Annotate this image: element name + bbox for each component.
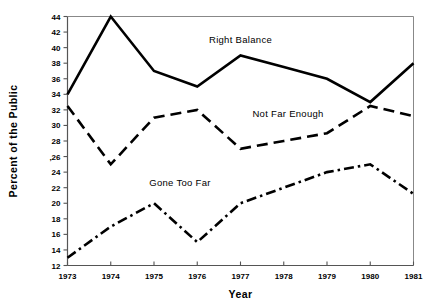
y-tick-label: 28: [52, 137, 61, 146]
series-label-not-far-enough: Not Far Enough: [252, 108, 323, 119]
series-label-right-balance: Right Balance: [209, 34, 272, 45]
y-axis-title: Percent of the Public: [7, 85, 19, 198]
series-line-not-far-enough: [68, 106, 414, 164]
y-tick-label: 14: [52, 246, 61, 255]
y-tick-label: 34: [52, 90, 61, 99]
x-tick-label: 1979: [318, 272, 336, 281]
y-tick-label: 18: [52, 215, 61, 224]
y-tick-label: 42: [52, 28, 61, 37]
x-tick-label: 1974: [102, 272, 120, 281]
x-tick-label: 1975: [145, 272, 163, 281]
y-tick-label: 12: [52, 262, 61, 271]
y-tick-label: 44: [52, 13, 61, 22]
y-tick-label: 38: [52, 59, 61, 68]
line-chart: 12141618202224,2628303234363840424419731…: [0, 0, 436, 307]
y-tick-label: 22: [52, 184, 61, 193]
y-tick-label: 24: [52, 168, 61, 177]
y-tick-label: ,26: [49, 153, 61, 162]
series-label-gone-too-far: Gone Too Far: [149, 177, 211, 188]
x-tick-label: 1976: [188, 272, 206, 281]
x-tick-label: 1977: [232, 272, 250, 281]
y-tick-label: 30: [52, 121, 61, 130]
x-axis-title: Year: [229, 288, 253, 300]
chart-canvas: 12141618202224,2628303234363840424419731…: [0, 0, 436, 307]
y-tick-label: 16: [52, 230, 61, 239]
y-tick-label: 40: [52, 44, 61, 53]
x-tick-label: 1978: [275, 272, 293, 281]
series-line-gone-too-far: [68, 164, 414, 257]
y-tick-label: 20: [52, 199, 61, 208]
y-tick-label: 32: [52, 106, 61, 115]
series-line-right-balance: [68, 17, 414, 103]
y-tick-label: 36: [52, 75, 61, 84]
x-tick-label: 1981: [405, 272, 423, 281]
x-tick-label: 1980: [361, 272, 379, 281]
x-tick-label: 1973: [59, 272, 77, 281]
